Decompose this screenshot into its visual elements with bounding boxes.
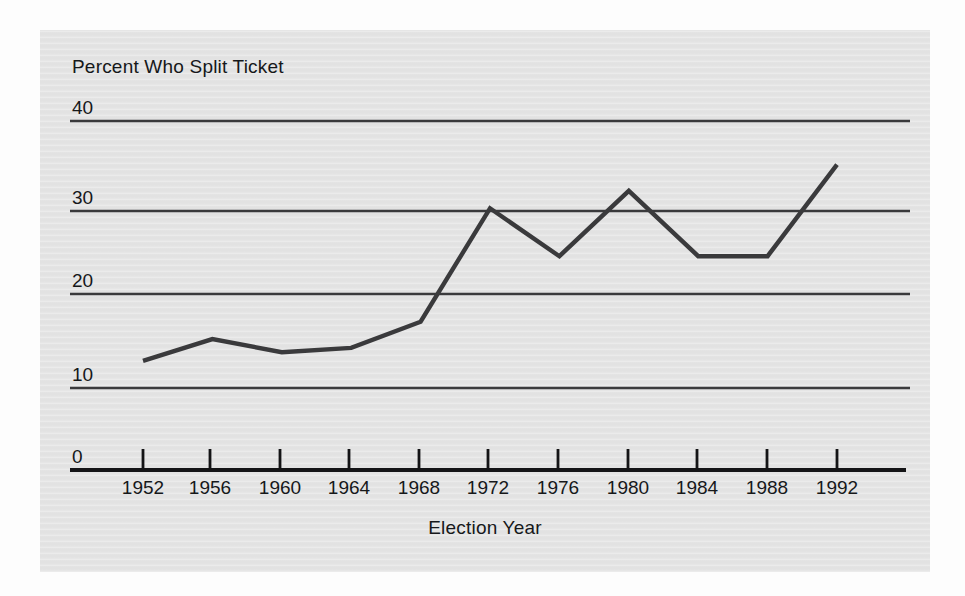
x-tick-label-1956: 1956: [189, 478, 231, 497]
data-series-line: [143, 165, 837, 361]
x-tick-label-1976: 1976: [537, 478, 579, 497]
x-tick-label-1988: 1988: [746, 478, 788, 497]
x-tick-label-1952: 1952: [122, 478, 164, 497]
x-tick-label-1992: 1992: [816, 478, 858, 497]
x-tick-label-1972: 1972: [467, 478, 509, 497]
x-tick-label-1960: 1960: [259, 478, 301, 497]
x-axis-title: Election Year: [40, 517, 930, 539]
gridlines: [70, 121, 910, 388]
figure-canvas: Percent Who Split Ticket 40 30 20 10 0: [0, 0, 965, 596]
x-axis-ticks: [143, 449, 837, 470]
x-tick-label-1980: 1980: [607, 478, 649, 497]
chart-panel: Percent Who Split Ticket 40 30 20 10 0: [40, 30, 930, 572]
x-tick-label-1984: 1984: [676, 478, 718, 497]
x-tick-label-1968: 1968: [398, 478, 440, 497]
x-tick-label-1964: 1964: [328, 478, 370, 497]
